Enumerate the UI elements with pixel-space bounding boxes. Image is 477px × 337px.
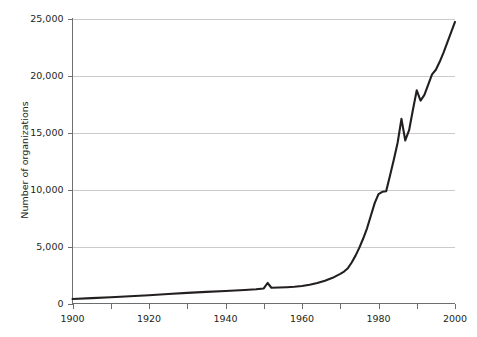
y-tick-label: 20,000 [30,70,63,81]
y-tick-label-group: 05,00010,00015,00020,00025,000 [30,13,63,309]
axis-group [72,18,455,304]
y-tick-label: 10,000 [30,184,63,195]
x-tick-label: 2000 [443,313,467,324]
x-tick-label-group: 190019201940196019802000 [60,313,467,324]
y-tick-label: 0 [57,298,63,309]
x-tick-label: 1920 [137,313,161,324]
gridline-group [73,20,456,248]
line-chart: 05,00010,00015,00020,00025,000 190019201… [0,0,477,337]
x-tick-label: 1980 [366,313,390,324]
y-axis-title: Number of organizations [19,101,30,218]
x-tick-label: 1900 [60,313,84,324]
tick-group [68,20,456,309]
chart-container: 05,00010,00015,00020,00025,000 190019201… [0,0,477,337]
x-tick-label: 1960 [290,313,314,324]
y-tick-label: 25,000 [30,13,63,24]
y-tick-label: 15,000 [30,127,63,138]
y-tick-label: 5,000 [36,241,63,252]
data-series-line [73,22,456,299]
x-tick-label: 1940 [213,313,237,324]
